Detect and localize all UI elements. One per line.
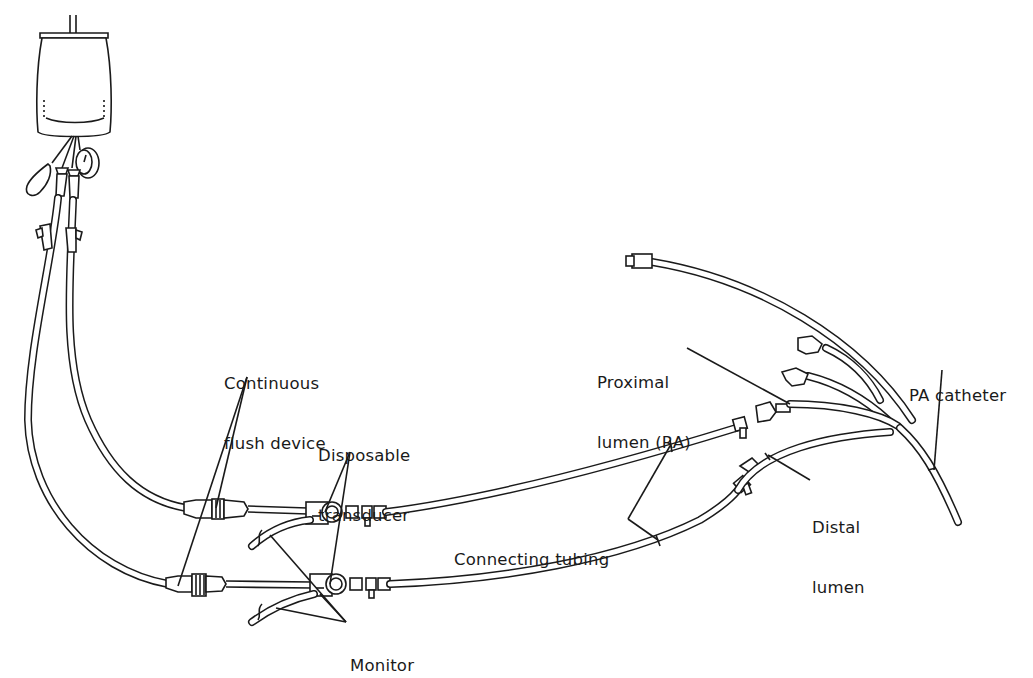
drip-chamber-left-icon — [56, 168, 68, 196]
label-disposable-transducer: Disposable transducer — [318, 406, 410, 546]
label-line: flush device — [224, 434, 326, 454]
flush-solution-bag-icon — [37, 33, 111, 137]
label-line: Distal — [812, 518, 865, 538]
label-pa-catheter: PA catheter — [909, 346, 1006, 426]
label-monitor-connecting-cables: Monitor connecting cables — [350, 616, 503, 678]
label-line: Proximal — [597, 373, 691, 393]
label-connecting-tubing: Connecting tubing — [454, 510, 609, 590]
label-line: Continuous — [224, 374, 326, 394]
pressure-bulb-icon — [26, 164, 50, 195]
monitor-cable-lower-icon — [252, 594, 314, 622]
label-proximal-lumen: Proximal lumen (RA) — [597, 333, 691, 473]
stopcock-proximal-icon — [733, 402, 790, 438]
label-line: transducer — [318, 506, 410, 526]
iv-bag-hanger — [70, 15, 76, 33]
label-continuous-flush-device: Continuous flush device — [224, 334, 326, 474]
tubing-lower-loop — [28, 198, 168, 584]
label-line: Monitor — [350, 656, 503, 676]
label-line: lumen (RA) — [597, 433, 691, 453]
continuous-flush-device-lower-icon — [166, 574, 226, 596]
continuous-flush-device-upper-icon — [184, 499, 248, 519]
label-line: lumen — [812, 578, 865, 598]
drip-chamber-right-icon — [68, 170, 80, 198]
label-line: Connecting tubing — [454, 550, 609, 570]
label-line: Disposable — [318, 446, 410, 466]
monitor-cable-upper-icon — [252, 520, 310, 546]
roller-clamp-right-icon — [66, 228, 82, 252]
roller-clamp-left-icon — [36, 224, 52, 250]
label-distal-lumen: Distal lumen — [812, 478, 865, 618]
tubing-upper-loop — [69, 200, 186, 508]
label-line: PA catheter — [909, 386, 1006, 406]
